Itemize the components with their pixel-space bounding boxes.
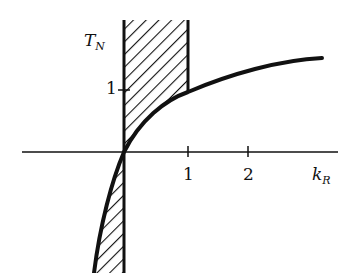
x-tick-label-1: 1 [183, 164, 194, 184]
diagram-canvas [0, 0, 359, 273]
x-tick-label-2: 2 [243, 164, 254, 184]
y-tick-label-1: 1 [106, 78, 117, 98]
y-axis-label: TN [84, 30, 105, 53]
hatched-region-lower [80, 140, 140, 273]
x-axis-label: kR [312, 164, 331, 187]
